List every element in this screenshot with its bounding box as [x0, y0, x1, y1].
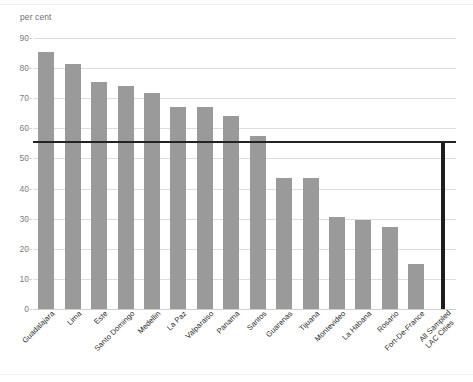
- bar: [382, 227, 398, 310]
- x-axis-category-label: Rosario: [375, 309, 400, 334]
- y-axis-tick-mark: [26, 309, 32, 310]
- gridline: [33, 68, 456, 69]
- gridline: [33, 38, 456, 39]
- y-axis-tick-mark: [26, 189, 32, 190]
- x-axis-category-label: Lima: [65, 309, 83, 327]
- bar: [441, 142, 445, 309]
- bar: [144, 93, 160, 309]
- bar: [91, 82, 107, 309]
- y-axis-unit-label: per cent: [20, 12, 52, 22]
- y-axis-tick-mark: [26, 219, 32, 220]
- bar: [197, 107, 213, 309]
- y-axis-tick-mark: [26, 128, 32, 129]
- bar: [38, 52, 54, 309]
- y-axis-tick-mark: [26, 249, 32, 250]
- bar: [118, 86, 134, 309]
- bar: [355, 220, 371, 309]
- x-axis-category-label: Valparaiso: [184, 309, 216, 341]
- y-axis-tick-labels: 0102030405060708090: [0, 38, 29, 309]
- bar: [276, 178, 292, 309]
- bar: [329, 217, 345, 309]
- y-axis-tick-mark: [26, 98, 32, 99]
- x-axis-category-label: La Paz: [165, 309, 188, 332]
- bar: [65, 64, 81, 309]
- y-axis-tick-mark: [26, 279, 32, 280]
- bar-chart-figure: per cent 0102030405060708090 Guadalajara…: [0, 0, 473, 382]
- top-divider: [0, 4, 473, 5]
- reference-line: [33, 141, 456, 143]
- bar: [250, 136, 266, 309]
- bar: [223, 116, 239, 309]
- x-axis-category-label: Medellin: [136, 309, 163, 336]
- x-axis-category-label: Tijuana: [297, 309, 321, 333]
- x-axis-category-label: Este: [92, 309, 109, 326]
- y-axis-tick-mark: [26, 38, 32, 39]
- y-axis-tick-mark: [26, 68, 32, 69]
- bar: [170, 107, 186, 309]
- x-axis-category-label: Guarenas: [264, 309, 294, 339]
- plot-area: [33, 38, 456, 309]
- x-axis-category-labels: GuadalajaraLimaEsteSanto DomingoMedellin…: [33, 309, 456, 382]
- bar: [408, 264, 424, 309]
- x-axis-category-label: Guadalajara: [21, 309, 57, 345]
- bar: [303, 178, 319, 309]
- x-axis-category-label: Santos: [245, 309, 268, 332]
- x-axis-category-label: Panama: [215, 309, 242, 336]
- y-axis-tick-mark: [26, 158, 32, 159]
